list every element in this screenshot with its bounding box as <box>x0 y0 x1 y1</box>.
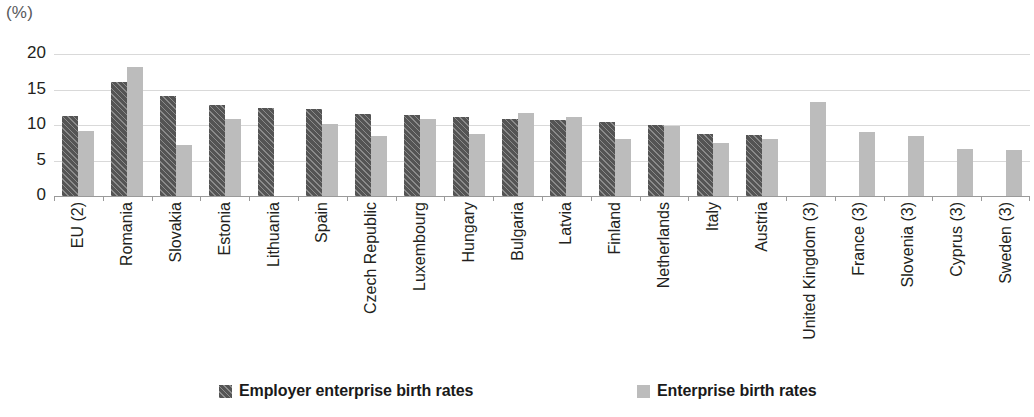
category-label-slot: Slovakia <box>152 202 201 352</box>
x-axis-tickmark <box>786 196 787 201</box>
bar-enterprise-birth-rate <box>78 131 94 196</box>
bar-employer-enterprise-birth-rate <box>209 105 225 196</box>
category-label: France (3) <box>851 202 867 276</box>
bar-group <box>688 54 737 196</box>
category-label: Finland <box>607 202 623 254</box>
bar-groups <box>54 54 1030 196</box>
bar-group <box>249 54 298 196</box>
bar-employer-enterprise-birth-rate <box>404 115 420 196</box>
bar-group <box>298 54 347 196</box>
bar-employer-enterprise-birth-rate <box>453 117 469 196</box>
y-axis-tick-label: 15 <box>2 79 46 99</box>
category-label-slot: EU (2) <box>54 202 103 352</box>
category-label: Estonia <box>217 202 233 255</box>
category-label-slot: Romania <box>103 202 152 352</box>
category-label-slot: Sweden (3) <box>981 202 1030 352</box>
x-axis-tickmark <box>298 196 299 201</box>
category-label-slot: Cyprus (3) <box>932 202 981 352</box>
x-axis-tickmark <box>200 196 201 201</box>
bar-group <box>981 54 1030 196</box>
bar-group <box>591 54 640 196</box>
x-axis-tickmark <box>249 196 250 201</box>
category-label: Netherlands <box>656 202 672 288</box>
x-axis-tickmark <box>444 196 445 201</box>
bar-enterprise-birth-rate <box>420 119 436 196</box>
legend-label: Enterprise birth rates <box>657 382 817 400</box>
category-label-slot: Luxembourg <box>396 202 445 352</box>
bar-group <box>396 54 445 196</box>
x-axis-tickmark <box>1029 196 1030 201</box>
x-axis-tickmark <box>835 196 836 201</box>
bar-employer-enterprise-birth-rate <box>111 82 127 196</box>
legend-swatch-icon <box>219 385 232 398</box>
bar-enterprise-birth-rate <box>1006 150 1022 196</box>
bar-group <box>103 54 152 196</box>
x-axis-tickmark <box>591 196 592 201</box>
y-axis-unit-label: (%) <box>6 3 33 23</box>
x-axis-tickmark <box>542 196 543 201</box>
bar-group <box>444 54 493 196</box>
x-axis-tickmark <box>396 196 397 201</box>
bar-enterprise-birth-rate <box>859 132 875 196</box>
bar-enterprise-birth-rate <box>810 102 826 196</box>
bar-group <box>493 54 542 196</box>
bar-employer-enterprise-birth-rate <box>160 96 176 196</box>
category-label-slot: Bulgaria <box>493 202 542 352</box>
bar-enterprise-birth-rate <box>322 124 338 196</box>
x-axis-tickmark <box>981 196 982 201</box>
category-label-slot: Italy <box>688 202 737 352</box>
x-axis-tickmark <box>737 196 738 201</box>
y-axis-tick-label: 20 <box>2 43 46 63</box>
bar-group <box>932 54 981 196</box>
category-label: Bulgaria <box>510 202 526 261</box>
category-axis-labels: EU (2)RomaniaSlovakiaEstoniaLithuaniaSpa… <box>54 202 1030 352</box>
bar-group <box>786 54 835 196</box>
bar-enterprise-birth-rate <box>225 119 241 196</box>
legend-item[interactable]: Enterprise birth rates <box>637 382 817 400</box>
bar-group <box>737 54 786 196</box>
category-label: Sweden (3) <box>998 202 1014 284</box>
category-label: Latvia <box>558 202 574 245</box>
bar-group <box>640 54 689 196</box>
legend-item[interactable]: Employer enterprise birth rates <box>219 382 473 400</box>
bar-employer-enterprise-birth-rate <box>62 116 78 196</box>
category-label-slot: United Kingdom (3) <box>786 202 835 352</box>
category-label-slot: Estonia <box>200 202 249 352</box>
y-axis-tick-label: 10 <box>2 114 46 134</box>
category-label-slot: Latvia <box>542 202 591 352</box>
bar-employer-enterprise-birth-rate <box>355 114 371 196</box>
x-axis-tickmark <box>932 196 933 201</box>
category-label: Spain <box>314 202 330 243</box>
bar-enterprise-birth-rate <box>371 136 387 196</box>
category-label: Italy <box>705 202 721 231</box>
bar-enterprise-birth-rate <box>762 139 778 196</box>
bar-employer-enterprise-birth-rate <box>648 125 664 196</box>
bar-enterprise-birth-rate <box>908 136 924 196</box>
chart-legend: Employer enterprise birth ratesEnterpris… <box>0 382 1034 408</box>
category-label: Luxembourg <box>412 202 428 291</box>
bar-employer-enterprise-birth-rate <box>306 109 322 196</box>
x-axis-tickmark <box>347 196 348 201</box>
category-label-slot: Lithuania <box>249 202 298 352</box>
x-axis-tickmark <box>152 196 153 201</box>
bar-group <box>152 54 201 196</box>
bar-employer-enterprise-birth-rate <box>746 135 762 196</box>
category-label: Slovenia (3) <box>900 202 916 287</box>
y-axis-tick-label: 5 <box>2 150 46 170</box>
category-label-slot: France (3) <box>835 202 884 352</box>
category-label-slot: Hungary <box>444 202 493 352</box>
x-axis-tickmark <box>688 196 689 201</box>
category-label-slot: Slovenia (3) <box>884 202 933 352</box>
bar-group <box>835 54 884 196</box>
category-label: Austria <box>754 202 770 252</box>
x-axis-tickmark <box>640 196 641 201</box>
category-label: Slovakia <box>168 202 184 262</box>
y-axis-ticks: 05101520 <box>0 54 46 196</box>
x-axis-tickmark <box>103 196 104 201</box>
bar-enterprise-birth-rate <box>176 145 192 196</box>
bar-enterprise-birth-rate <box>664 126 680 196</box>
bar-enterprise-birth-rate <box>469 134 485 196</box>
category-label: Cyprus (3) <box>949 202 965 277</box>
category-label-slot: Austria <box>737 202 786 352</box>
bar-enterprise-birth-rate <box>518 113 534 196</box>
